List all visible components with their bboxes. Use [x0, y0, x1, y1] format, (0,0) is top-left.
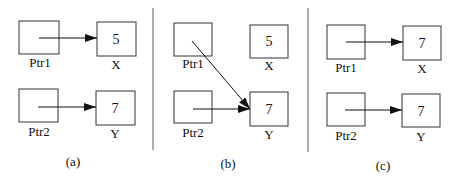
- y-label: Y: [110, 126, 120, 141]
- ptr2-box: [174, 91, 212, 123]
- y-label: Y: [416, 129, 426, 144]
- y-value: 7: [112, 101, 119, 116]
- x-value: 7: [419, 36, 426, 51]
- pointer-diagram: Ptr1 5 X Ptr2 7 Y (a) Ptr1 5 X Ptr2 7 Y …: [0, 0, 459, 185]
- ptr1-box: [174, 23, 212, 56]
- ptr1-label: Ptr1: [335, 60, 357, 75]
- x-value: 5: [266, 34, 273, 49]
- ptr2-label: Ptr2: [335, 128, 357, 143]
- y-value: 7: [266, 102, 273, 117]
- panel-caption: (c): [376, 158, 390, 173]
- x-label: X: [417, 61, 427, 76]
- ptr2-label: Ptr2: [28, 124, 50, 139]
- ptr2-box: [19, 89, 58, 122]
- x-label: X: [264, 58, 274, 73]
- y-value: 7: [418, 104, 425, 119]
- panel-c: Ptr1 7 X Ptr2 7 Y (c): [327, 25, 441, 173]
- panel-b: Ptr1 5 X Ptr2 7 Y (b): [174, 23, 288, 171]
- x-label: X: [111, 57, 121, 72]
- ptr1-label: Ptr1: [182, 56, 204, 71]
- panel-caption: (b): [220, 156, 235, 171]
- x-value: 5: [113, 32, 120, 47]
- ptr1-label: Ptr1: [29, 55, 51, 70]
- ptr2-label: Ptr2: [182, 125, 204, 140]
- panel-caption: (a): [66, 154, 80, 169]
- y-label: Y: [264, 127, 274, 142]
- panel-a: Ptr1 5 X Ptr2 7 Y (a): [19, 21, 136, 169]
